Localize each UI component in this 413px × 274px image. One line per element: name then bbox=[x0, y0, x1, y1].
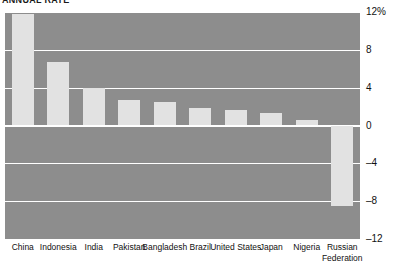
y-axis: 12%840–4–8–12 bbox=[366, 0, 413, 274]
bar[interactable] bbox=[12, 14, 34, 126]
x-axis: ChinaIndonesiaIndiaPakistanBangladeshBra… bbox=[5, 242, 360, 274]
bar-series bbox=[5, 12, 360, 239]
y-axis-tick-label: 4 bbox=[366, 82, 372, 93]
bar[interactable] bbox=[189, 108, 211, 125]
chart-container: ANNUAL RATE 12%840–4–8–12 ChinaIndonesia… bbox=[0, 0, 413, 274]
y-axis-tick-label: 0 bbox=[366, 120, 372, 131]
bar[interactable] bbox=[83, 88, 105, 126]
bar[interactable] bbox=[47, 62, 69, 125]
y-axis-tick-label: 8 bbox=[366, 44, 372, 55]
y-axis-tick-label: –8 bbox=[366, 195, 377, 206]
bar[interactable] bbox=[118, 100, 140, 126]
y-axis-tick-label: –12 bbox=[366, 233, 383, 244]
y-axis-tick-label: 12% bbox=[366, 6, 386, 17]
bar[interactable] bbox=[296, 120, 318, 126]
plot-area bbox=[5, 12, 360, 239]
bar[interactable] bbox=[331, 126, 353, 206]
gridline bbox=[5, 239, 360, 240]
bar[interactable] bbox=[154, 102, 176, 126]
bar[interactable] bbox=[225, 110, 247, 125]
bar[interactable] bbox=[260, 113, 282, 125]
y-axis-tick-label: –4 bbox=[366, 157, 377, 168]
x-axis-tick-label: Russian Federation bbox=[317, 242, 368, 263]
chart-title: ANNUAL RATE bbox=[2, 0, 69, 5]
